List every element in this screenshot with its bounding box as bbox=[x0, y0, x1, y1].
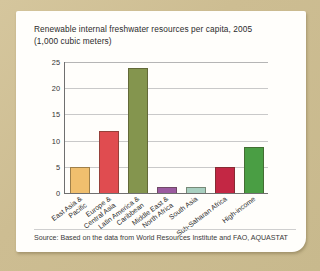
bar-1[interactable] bbox=[70, 167, 90, 193]
y-tick-label-20: 20 bbox=[52, 84, 60, 93]
figure-title-line-1: Renewable internal freshwater resources … bbox=[34, 24, 296, 36]
figure-card: Renewable internal freshwater resources … bbox=[16, 11, 297, 252]
y-tick-label-15: 15 bbox=[52, 110, 60, 119]
bar-slot bbox=[152, 62, 181, 193]
bar-7[interactable] bbox=[244, 147, 264, 193]
y-tick-label-25: 25 bbox=[52, 58, 60, 67]
bar-slot bbox=[181, 62, 210, 193]
bar-slot bbox=[239, 62, 268, 193]
figure-title: Renewable internal freshwater resources … bbox=[34, 24, 296, 47]
bar-slot bbox=[94, 62, 123, 193]
figure-title-line-2: (1,000 cubic meters) bbox=[34, 36, 296, 48]
bar-slot bbox=[65, 62, 94, 193]
y-tick-label-5: 5 bbox=[56, 162, 60, 171]
y-tick-label-0: 0 bbox=[56, 189, 60, 198]
chart-area: 0510152025 bbox=[16, 54, 297, 200]
beige-page-frame: Renewable internal freshwater resources … bbox=[0, 0, 297, 271]
y-tick-label-10: 10 bbox=[52, 136, 60, 145]
bar-slot bbox=[210, 62, 239, 193]
bar-series bbox=[65, 62, 268, 193]
x-axis-labels: East Asia &PacificEurope &Central AsiaLa… bbox=[64, 193, 267, 252]
bar-2[interactable] bbox=[99, 131, 119, 193]
figure-source: Source: Based on the data from World Res… bbox=[34, 229, 296, 242]
plot-frame: 0510152025 bbox=[64, 62, 268, 194]
bar-slot bbox=[123, 62, 152, 193]
bar-3[interactable] bbox=[128, 68, 148, 193]
bar-6[interactable] bbox=[215, 167, 235, 193]
